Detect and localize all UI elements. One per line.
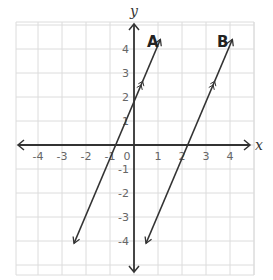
x-tick-label: 3 [203,150,210,163]
y-tick-label: -3 [118,211,129,224]
x-tick-label: -2 [81,150,92,163]
y-tick-label: 2 [122,91,129,104]
line-label-A: A [147,33,159,51]
x-axis-label: x [255,137,263,153]
y-tick-label: 4 [122,43,129,56]
grid [16,22,254,275]
y-tick-label: -1 [118,163,129,176]
x-tick-label: -3 [57,150,68,163]
line-B [146,39,232,243]
y-tick-label: -4 [118,235,129,248]
y-axis-label: y [129,3,139,19]
y-tick-label: 3 [122,67,129,80]
lines: AB [73,33,233,243]
axes [18,24,250,272]
x-tick-label: 4 [227,150,234,163]
coordinate-plane: -4-3-2-1012344321-1-2-3-4 AB x y [0,0,273,280]
x-tick-label: -4 [33,150,44,163]
line-label-B: B [217,33,228,51]
x-tick-label: 1 [155,150,162,163]
y-tick-label: -2 [118,187,129,200]
x-tick-label: 0 [124,150,131,163]
